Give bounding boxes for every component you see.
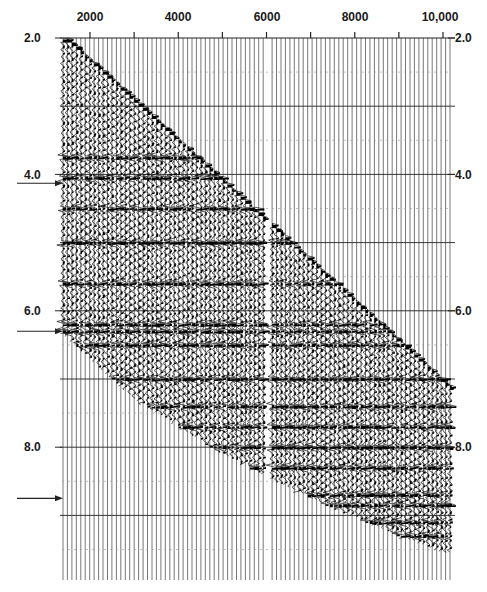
y-tick-label-right: 6.0 (455, 304, 472, 318)
y-tick-label-right: 4.0 (455, 168, 472, 182)
y-tick-label-left: 6.0 (24, 304, 41, 318)
y-tick-label-left: 8.0 (24, 440, 41, 454)
y-tick-label-right: 2.0 (455, 31, 472, 45)
seismic-gather-plot (0, 0, 487, 592)
y-tick-label-left: 2.0 (24, 31, 41, 45)
x-tick-label: 8000 (342, 10, 369, 24)
y-tick-label-right: 8.0 (455, 440, 472, 454)
x-tick-label: 2000 (77, 10, 104, 24)
x-tick-label: 10,000 (422, 10, 459, 24)
x-tick-label: 6000 (254, 10, 281, 24)
y-tick-label-left: 4.0 (24, 168, 41, 182)
seismic-traces (0, 0, 487, 592)
x-tick-label: 4000 (165, 10, 192, 24)
